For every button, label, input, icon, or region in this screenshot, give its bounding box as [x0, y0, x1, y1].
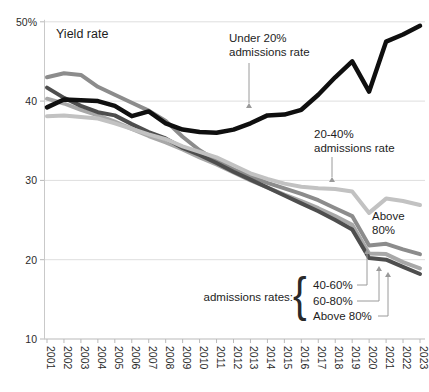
- x-tick-label: 2011: [215, 346, 227, 369]
- y-tick-label: 20: [25, 254, 37, 266]
- x-tick-label: 2019: [350, 346, 362, 370]
- x-tick-label: 2008: [164, 346, 176, 370]
- yield-rate-chart: 50%4030201020012002200320042005200620072…: [0, 0, 429, 392]
- annotation-20-40: 20-40% admissions rate: [314, 127, 395, 155]
- bracket-60-80-pointer-arrowhead: [376, 266, 382, 271]
- x-tick-label: 2014: [265, 346, 277, 370]
- x-tick-label: 2022: [401, 346, 413, 370]
- x-tick-label: 2007: [147, 346, 159, 370]
- x-tick-label: 2020: [367, 346, 379, 370]
- annotation-above-80: Above 80%: [372, 209, 405, 237]
- bracket-item-40-60: 40-60%: [313, 278, 372, 294]
- curly-brace: {: [293, 270, 307, 319]
- x-tick-label: 2013: [248, 346, 260, 370]
- x-tick-label: 2017: [316, 346, 328, 370]
- annotation-under-20-line2: admissions rate: [229, 45, 310, 59]
- annotation-20-40-line2: admissions rate: [314, 141, 395, 155]
- y-tick-label: 50%: [16, 16, 37, 28]
- x-tick-label: 2010: [198, 346, 210, 370]
- y-tick-label: 40: [25, 95, 37, 107]
- annotation-under-20-line1: Under 20%: [229, 31, 310, 45]
- annotation-under-20: Under 20% admissions rate: [229, 31, 310, 59]
- x-tick-label: 2021: [384, 346, 396, 370]
- y-tick-label: 30: [25, 174, 37, 186]
- annotation-20-40-line1: 20-40%: [314, 127, 395, 141]
- annotation-above-80-line1: Above: [372, 209, 405, 223]
- under-20-pointer-arrowhead: [246, 103, 252, 108]
- x-tick-label: 2018: [333, 346, 345, 370]
- bracket-item-60-80: 60-80%: [313, 294, 372, 310]
- series-line-60-80: [47, 99, 420, 269]
- x-tick-label: 2004: [96, 346, 108, 370]
- x-tick-label: 2006: [130, 346, 142, 370]
- x-tick-label: 2023: [418, 346, 429, 370]
- annotation-above-80-line2: 80%: [372, 223, 405, 237]
- bracket-caption: admissions rates:: [203, 290, 293, 304]
- chart-plot-area: 50%4030201020012002200320042005200620072…: [0, 0, 429, 392]
- x-tick-label: 2015: [282, 346, 294, 370]
- chart-title: Yield rate: [56, 27, 108, 41]
- bracket-item-above-80: Above 80%: [313, 309, 372, 325]
- x-tick-label: 2005: [113, 346, 125, 370]
- bracket-above-80-pointer-arrowhead: [385, 272, 391, 277]
- 20-40-pointer-arrowhead: [329, 177, 335, 182]
- x-tick-label: 2003: [79, 346, 91, 370]
- bracket-items: 40-60% 60-80% Above 80%: [313, 278, 372, 325]
- x-tick-label: 2001: [45, 346, 57, 370]
- x-tick-label: 2009: [181, 346, 193, 370]
- y-tick-label: 10: [25, 333, 37, 345]
- x-tick-label: 2012: [232, 346, 244, 370]
- x-tick-label: 2016: [299, 346, 311, 370]
- x-tick-label: 2002: [62, 346, 74, 370]
